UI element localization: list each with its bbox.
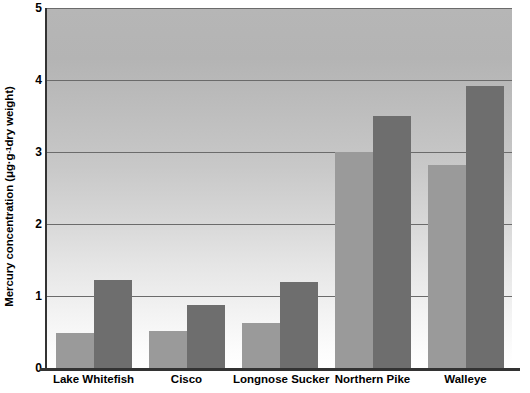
category-label-cisco: Cisco (140, 373, 233, 385)
x-axis-category-labels: Lake WhitefishCiscoLongnose SuckerNorthe… (47, 372, 512, 392)
category-label-longnose-sucker: Longnose Sucker (233, 373, 326, 385)
category-label-lake-whitefish: Lake Whitefish (47, 373, 140, 385)
y-tick-label-3: 3 (18, 146, 42, 158)
bar-lake-whitefish-light (56, 333, 94, 368)
y-axis-title-prefix: Mercury concentration (μg·g (3, 153, 15, 306)
bar-longnose-sucker-dark (280, 282, 318, 368)
y-tick-label-1: 1 (18, 290, 42, 302)
category-label-walleye: Walleye (419, 373, 512, 385)
category-label-northern-pike: Northern Pike (326, 373, 419, 385)
bar-cisco-dark (187, 305, 225, 368)
bar-northern-pike-dark (373, 116, 411, 368)
y-tick-label-4: 4 (18, 74, 42, 86)
bar-cisco-light (149, 331, 187, 368)
y-tick-label-5: 5 (18, 2, 42, 14)
bar-longnose-sucker-light (242, 323, 280, 368)
y-axis-line (45, 8, 47, 369)
y-axis-tick-labels: 012345 (16, 0, 42, 393)
bar-northern-pike-light (335, 152, 373, 368)
bar-walleye-dark (466, 86, 504, 368)
bars-layer (47, 8, 512, 368)
plot-area (47, 8, 512, 368)
bar-walleye-light (428, 165, 466, 368)
bar-lake-whitefish-dark (94, 280, 132, 368)
y-tick-label-0: 0 (18, 362, 42, 374)
y-axis-title-suffix: dry weight) (3, 86, 15, 146)
x-axis-line (40, 368, 520, 371)
bar-chart: Mercury concentration (μg·g-1 dry weight… (0, 0, 530, 393)
y-tick-label-2: 2 (18, 218, 42, 230)
